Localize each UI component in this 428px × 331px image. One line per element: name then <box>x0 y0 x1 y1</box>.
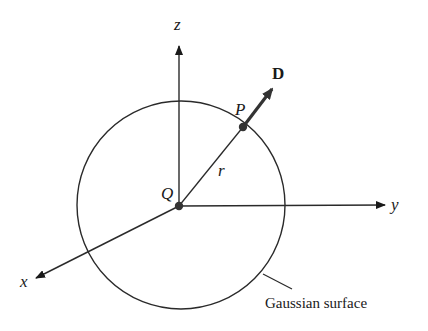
x-axis <box>36 206 179 278</box>
gaussian-surface-diagram: z y x Q P r D Gaussian surface <box>0 0 428 331</box>
d-vector-arrow <box>243 89 272 127</box>
surface-leader-line <box>263 274 292 289</box>
y-axis-label: y <box>389 195 399 214</box>
x-axis-label: x <box>19 272 28 291</box>
z-axis-label: z <box>173 15 181 34</box>
y-axis <box>179 205 385 206</box>
point-dot <box>239 123 247 131</box>
radius-line <box>179 127 243 206</box>
radius-label: r <box>218 161 225 180</box>
surface-label: Gaussian surface <box>265 295 367 311</box>
vector-label: D <box>272 64 284 83</box>
charge-label: Q <box>161 184 173 203</box>
charge-dot <box>175 202 183 210</box>
point-label: P <box>234 100 245 119</box>
